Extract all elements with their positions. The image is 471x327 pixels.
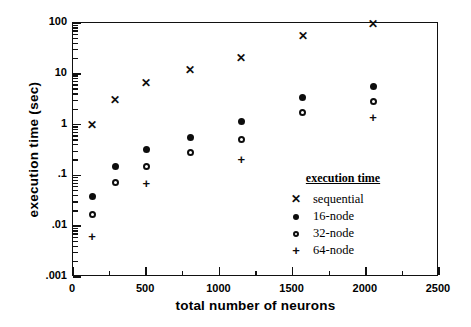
marker-filled-circle <box>293 214 299 220</box>
y-tick-minor <box>73 186 78 187</box>
y-tick-label: .001 <box>27 269 67 281</box>
y-tick-minor <box>73 159 78 160</box>
y-tick-major <box>73 22 81 24</box>
marker-open-circle <box>293 231 299 237</box>
y-tick-minor <box>73 88 78 89</box>
y-tick-minor <box>73 93 78 94</box>
y-tick-minor <box>73 201 78 202</box>
y-tick-minor <box>73 230 78 231</box>
x-tick-major <box>145 267 147 275</box>
legend-entry: ✕sequential <box>283 191 403 208</box>
y-tick-minor <box>73 144 78 145</box>
marker-plus: + <box>87 231 98 242</box>
marker-filled-circle <box>238 118 245 125</box>
marker-open-circle <box>299 109 306 116</box>
x-tick-minor <box>329 271 330 276</box>
x-tick-major <box>219 267 221 275</box>
y-tick-minor <box>73 78 78 79</box>
x-tick-label: 2000 <box>340 282 390 294</box>
y-tick-minor <box>73 228 78 229</box>
legend-marker <box>283 208 309 225</box>
marker-x: ✕ <box>291 194 302 205</box>
x-tick-major <box>292 267 294 275</box>
legend-marker: + <box>283 242 309 259</box>
marker-open-circle <box>238 136 245 143</box>
y-tick-major <box>73 73 81 75</box>
legend-label: sequential <box>309 192 364 207</box>
y-tick-minor <box>73 126 78 127</box>
legend-entries: ✕sequential16-node32-node+64-node <box>283 191 403 259</box>
x-axis-title: total number of neurons <box>72 298 439 313</box>
y-tick-minor <box>73 183 78 184</box>
marker-filled-circle <box>112 163 119 170</box>
y-tick-minor <box>73 38 78 39</box>
y-tick-minor <box>73 190 78 191</box>
marker-open-circle <box>89 211 96 218</box>
y-tick-minor <box>73 43 78 44</box>
y-tick-minor <box>73 25 78 26</box>
y-tick-label: 1 <box>27 117 67 129</box>
y-tick-minor <box>73 30 78 31</box>
marker-x: ✕ <box>185 65 196 76</box>
legend-entry: 32-node <box>283 225 403 242</box>
y-tick-major <box>73 225 81 227</box>
y-tick-minor <box>73 151 78 152</box>
legend-entry: 16-node <box>283 208 403 225</box>
y-tick-minor <box>73 100 78 101</box>
marker-x: ✕ <box>368 19 379 30</box>
y-tick-minor <box>73 132 78 133</box>
marker-plus: + <box>291 245 302 256</box>
y-tick-minor <box>73 210 78 211</box>
y-tick-minor <box>73 180 78 181</box>
y-tick-major <box>73 175 81 177</box>
x-tick-minor <box>402 271 403 276</box>
x-tick-label: 0 <box>47 282 97 294</box>
legend-title: execution time <box>283 171 403 186</box>
marker-open-circle <box>370 98 377 105</box>
marker-x: ✕ <box>141 78 152 89</box>
y-tick-label: 10 <box>27 66 67 78</box>
marker-open-circle <box>143 163 150 170</box>
y-tick-minor <box>73 252 78 253</box>
y-tick-minor <box>73 27 78 28</box>
y-tick-minor <box>73 139 78 140</box>
marker-filled-circle <box>187 134 194 141</box>
chart-figure: execution time (sec) ✕✕✕✕✕✕✕++++ 100101.… <box>0 0 471 327</box>
marker-x: ✕ <box>297 31 308 42</box>
y-tick-minor <box>73 49 78 50</box>
x-tick-label: 500 <box>120 282 170 294</box>
marker-filled-circle <box>370 83 377 90</box>
x-tick-label: 2500 <box>413 282 463 294</box>
x-tick-minor <box>255 271 256 276</box>
x-tick-label: 1500 <box>267 282 317 294</box>
y-tick-minor <box>73 241 78 242</box>
x-tick-minor <box>109 271 110 276</box>
y-tick-minor <box>73 34 78 35</box>
y-tick-minor <box>73 195 78 196</box>
marker-filled-circle <box>299 94 306 101</box>
marker-x: ✕ <box>87 120 98 131</box>
y-tick-minor <box>73 246 78 247</box>
marker-open-circle <box>112 179 119 186</box>
marker-open-circle <box>187 149 194 156</box>
marker-filled-circle <box>143 146 150 153</box>
y-tick-minor <box>73 84 78 85</box>
y-tick-major <box>73 124 81 126</box>
y-tick-minor <box>73 58 78 59</box>
y-tick-major <box>73 276 81 278</box>
legend-entry: +64-node <box>283 242 403 259</box>
y-tick-minor <box>73 233 78 234</box>
legend-label: 16-node <box>309 209 354 224</box>
marker-filled-circle <box>89 193 96 200</box>
chart-legend: execution time ✕sequential16-node32-node… <box>283 171 403 259</box>
y-tick-minor <box>73 75 78 76</box>
y-tick-minor <box>73 237 78 238</box>
y-tick-minor <box>73 109 78 110</box>
x-tick-major <box>365 267 367 275</box>
marker-plus: + <box>141 178 152 189</box>
x-tick-major <box>72 267 74 275</box>
y-tick-minor <box>73 177 78 178</box>
legend-marker: ✕ <box>283 191 309 208</box>
y-tick-label: .01 <box>27 218 67 230</box>
legend-marker <box>283 225 309 242</box>
